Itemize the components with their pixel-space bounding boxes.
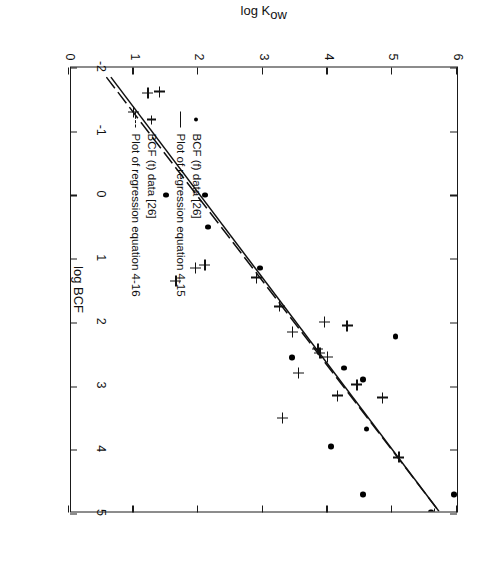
plus-marker-icon [147, 108, 156, 130]
data-point-plus [351, 379, 362, 390]
data-point-dot [393, 333, 399, 339]
data-point-dot [341, 365, 347, 371]
y-axis-tick-right [326, 505, 327, 512]
figure-canvas: log Kow log BCF BCF (f) data [26] Plot o… [0, 0, 500, 577]
x-axis-tick-label: 2 [94, 317, 108, 324]
x-axis-label: log BCF [71, 66, 86, 512]
x-axis-tick-top [451, 386, 458, 387]
data-point-dot [328, 443, 334, 449]
y-axis-tick-label: 2 [192, 53, 206, 60]
y-axis-tick [68, 67, 69, 74]
y-axis-tick-right [391, 505, 392, 512]
y-axis-tick-right [68, 505, 69, 512]
solid-line-icon [180, 108, 181, 130]
legend-item-label: BCF (t) data [26] [144, 130, 160, 218]
dashed-line-icon [135, 108, 136, 130]
legend-item: BCF (f) data [26] [189, 108, 205, 296]
data-point-plus [142, 87, 153, 98]
x-axis-tick-top [451, 194, 458, 195]
y-axis-tick [132, 67, 133, 74]
y-axis-tick-label: 1 [128, 53, 142, 60]
x-axis-tick-label: 3 [94, 381, 108, 388]
data-point-plus [377, 392, 388, 403]
y-axis-tick-right [132, 505, 133, 512]
scatter-chart: log Kow log BCF BCF (f) data [26] Plot o… [0, 0, 500, 577]
y-axis-tick [456, 67, 457, 74]
legend-item-label: Plot of regression equation 4-16 [128, 130, 144, 296]
data-point-plus [251, 272, 262, 283]
scanned-page: log Kow log BCF BCF (f) data [26] Plot o… [0, 0, 500, 577]
data-point-dot [360, 491, 366, 497]
y-axis-tick [197, 67, 198, 74]
y-axis-tick-label: 0 [63, 53, 77, 60]
data-point-dot [289, 354, 295, 360]
x-axis-tick-label: 4 [94, 445, 108, 452]
y-axis-label: log Kow [70, 2, 458, 22]
y-axis-tick-label: 5 [386, 53, 400, 60]
x-axis-tick-top [451, 322, 458, 323]
legend-item: Plot of regression equation 4-15 [173, 108, 189, 296]
y-axis-tick-label: 3 [257, 53, 271, 60]
data-point-plus [277, 412, 288, 423]
y-axis-tick-right [262, 505, 263, 512]
x-axis-tick [71, 513, 78, 514]
y-axis-tick-label: 4 [322, 53, 336, 60]
data-point-plus [293, 367, 304, 378]
data-point-plus [274, 300, 285, 311]
y-axis-tick-right [197, 505, 198, 512]
y-axis-tick-label: 6 [451, 53, 465, 60]
y-axis-tick [326, 67, 327, 74]
data-point-plus [429, 508, 440, 512]
x-axis-tick-label: 5 [94, 509, 108, 516]
x-axis-tick-top [451, 449, 458, 450]
data-point-plus [332, 390, 343, 401]
y-axis-tick [391, 67, 392, 74]
data-point-plus [342, 320, 353, 331]
legend-item-label: Plot of regression equation 4-15 [173, 130, 189, 296]
chart-legend: BCF (f) data [26] Plot of regression equ… [128, 108, 204, 296]
data-point-dot [205, 224, 211, 230]
x-axis-tick-top [451, 258, 458, 259]
data-point-plus [287, 326, 298, 337]
x-axis-tick-label: 1 [94, 254, 108, 261]
data-point-plus [154, 86, 165, 97]
legend-item: Plot of regression equation 4-16 [128, 108, 144, 296]
dot-marker-icon [194, 108, 199, 130]
y-axis-label-subscript: ow [271, 6, 288, 21]
data-point-plus [319, 316, 330, 327]
data-point-plus [312, 343, 323, 354]
legend-item: BCF (t) data [26] [144, 108, 160, 296]
x-axis-tick-label: -2 [94, 60, 108, 71]
x-axis-tick-top [451, 131, 458, 132]
x-axis-tick-label: -1 [94, 124, 108, 135]
data-point-dot [257, 265, 263, 271]
data-point-dot [451, 491, 457, 497]
data-point-plus [393, 451, 404, 462]
y-axis-tick-right [456, 505, 457, 512]
y-axis-tick [262, 67, 263, 74]
legend-item-label: BCF (f) data [26] [189, 130, 205, 218]
x-axis-tick-top [451, 513, 458, 514]
x-axis-tick-label: 0 [94, 190, 108, 197]
